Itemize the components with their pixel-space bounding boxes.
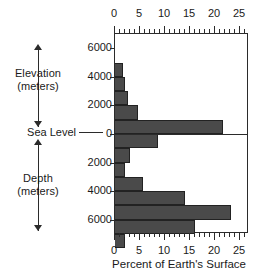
bar: [115, 77, 125, 91]
bar: [115, 220, 195, 234]
x-axis-major-tick: [214, 233, 215, 240]
bar: [115, 148, 130, 162]
x-axis-minor-tick: [204, 233, 205, 237]
x-axis-major-tick: [164, 233, 165, 240]
bar: [115, 134, 158, 148]
sea-level-zero-line: [115, 134, 247, 135]
x-axis-major-tick: [164, 26, 165, 33]
bar: [115, 177, 143, 191]
plot-area: [114, 33, 248, 233]
x-axis-tick-label: 25: [228, 8, 250, 19]
x-axis-tick-label: 15: [178, 245, 200, 256]
x-axis-major-tick: [239, 26, 240, 33]
depth-units-text: (meters): [0, 185, 76, 198]
depth-group-label: Depth (meters): [0, 172, 76, 198]
y-axis-tick: [110, 105, 115, 106]
x-axis-minor-tick: [194, 233, 195, 237]
x-axis-minor-tick: [169, 233, 170, 237]
y-axis-tick: [110, 191, 115, 192]
x-axis-major-tick: [189, 26, 190, 33]
x-axis-tick-label: 10: [153, 8, 175, 19]
bar: [115, 91, 128, 105]
elevation-group-label: Elevation (meters): [0, 67, 76, 93]
x-axis-minor-tick: [124, 233, 125, 237]
x-axis-minor-tick: [224, 233, 225, 237]
x-axis-tick-label: 5: [128, 245, 150, 256]
x-axis-tick-label: 25: [228, 245, 250, 256]
x-axis-major-tick: [139, 233, 140, 240]
x-axis-minor-tick: [244, 233, 245, 237]
x-axis-bottom-labels: 0510152025: [114, 245, 248, 257]
bar: [115, 105, 138, 119]
y-axis-tick-label: 0: [72, 128, 112, 139]
x-axis-major-tick: [239, 233, 240, 240]
elevation-label-text: Elevation: [0, 67, 76, 80]
depth-arrow-head-down: [34, 225, 42, 231]
y-axis-tick-label: 2000: [72, 99, 112, 110]
chart-page: Elevation (meters) Sea Level Depth (mete…: [0, 0, 262, 275]
x-axis-tick-label: 5: [128, 8, 150, 19]
bar: [115, 205, 231, 219]
y-axis-tick: [110, 48, 115, 49]
x-axis-major-tick: [114, 26, 115, 33]
x-axis-top-ticks: [114, 21, 248, 33]
elevation-units-text: (meters): [0, 80, 76, 93]
x-axis-minor-tick: [174, 233, 175, 237]
y-axis-tick: [110, 134, 115, 135]
bar: [115, 191, 185, 205]
bars-layer: [115, 34, 247, 232]
x-axis-minor-tick: [179, 233, 180, 237]
x-axis-minor-tick: [159, 233, 160, 237]
y-axis-tick-label: 6000: [72, 42, 112, 53]
x-axis-minor-tick: [229, 233, 230, 237]
y-axis-tick-label: 6000: [72, 214, 112, 225]
x-axis-minor-tick: [234, 233, 235, 237]
y-axis-tick: [110, 220, 115, 221]
x-axis-minor-tick: [119, 233, 120, 237]
x-axis-minor-tick: [154, 233, 155, 237]
bar: [115, 163, 125, 177]
x-axis-major-tick: [214, 26, 215, 33]
y-axis-tick-label: 2000: [72, 157, 112, 168]
x-axis-minor-tick: [149, 233, 150, 237]
y-axis-tick-label: 4000: [72, 185, 112, 196]
x-axis-tick-label: 0: [103, 245, 125, 256]
x-axis-tick-label: 15: [178, 8, 200, 19]
x-axis-minor-tick: [219, 233, 220, 237]
x-axis-major-tick: [189, 233, 190, 240]
y-axis-labels: 6000400020000200040006000: [72, 0, 112, 275]
x-axis-tick-label: 20: [203, 8, 225, 19]
x-axis-tick-label: 0: [103, 8, 125, 19]
bar: [115, 63, 123, 77]
y-axis-tick: [110, 77, 115, 78]
depth-label-text: Depth: [0, 172, 76, 185]
x-axis-minor-tick: [199, 233, 200, 237]
x-axis-tick-label: 20: [203, 245, 225, 256]
x-axis-minor-tick: [144, 233, 145, 237]
x-axis-minor-tick: [129, 233, 130, 237]
y-axis-tick: [110, 163, 115, 164]
x-axis-bottom-ticks: [114, 233, 248, 245]
bar: [115, 120, 223, 134]
x-axis-major-tick: [114, 233, 115, 240]
y-axis-tick-label: 4000: [72, 71, 112, 82]
x-axis-minor-tick: [134, 233, 135, 237]
x-axis-top-labels: 0510152025: [114, 8, 248, 20]
x-axis-tick-label: 10: [153, 245, 175, 256]
sea-level-label: Sea Level: [2, 126, 76, 138]
x-axis-minor-tick: [184, 233, 185, 237]
x-axis-minor-tick: [209, 233, 210, 237]
x-axis-title: Percent of Earth's Surface: [96, 258, 262, 270]
x-axis-major-tick: [139, 26, 140, 33]
